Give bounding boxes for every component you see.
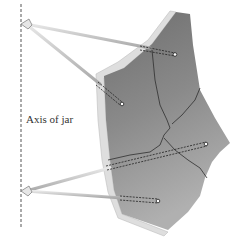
rod-upper-2 — [26, 24, 100, 84]
pivot-lower-icon — [21, 186, 32, 196]
rod-lower-1 — [26, 168, 110, 191]
pivot-joints — [21, 19, 32, 196]
rod-lower-2 — [26, 191, 122, 198]
axis-of-jar-label: Axis of jar — [26, 113, 73, 125]
rod-upper-1 — [26, 24, 150, 48]
